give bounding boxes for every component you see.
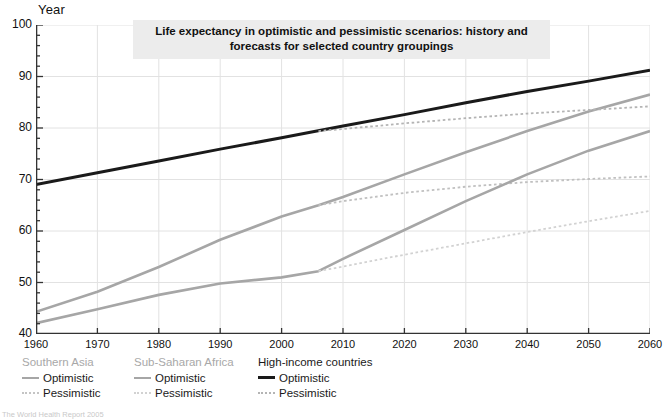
series-line — [318, 211, 650, 271]
legend-swatch-dotted-icon — [134, 392, 151, 394]
series-line — [318, 106, 650, 131]
x-tick-label: 2040 — [505, 338, 549, 350]
plot-svg — [36, 25, 650, 334]
legend-group-southern-asia: Southern Asia Optimistic Pessimistic — [22, 355, 101, 400]
chart-legend: Southern Asia Optimistic Pessimistic Sub… — [0, 355, 663, 405]
series-line — [318, 176, 650, 205]
x-tick-label: 2000 — [260, 338, 304, 350]
x-tick-label: 2010 — [321, 338, 365, 350]
x-tick-label: 2030 — [444, 338, 488, 350]
legend-item-pessimistic[interactable]: Pessimistic — [22, 385, 101, 400]
legend-item-pessimistic[interactable]: Pessimistic — [134, 385, 234, 400]
legend-item-optimistic[interactable]: Optimistic — [134, 370, 234, 385]
legend-swatch-solid-icon — [134, 377, 151, 379]
legend-group-header: Southern Asia — [22, 355, 101, 369]
chart-title: Life expectancy in optimistic and pessim… — [133, 20, 550, 59]
y-tick-label: 100 — [4, 17, 32, 31]
legend-swatch-solid-icon — [22, 377, 39, 379]
chart-figure: Year Life expectancy in optimistic and p… — [0, 0, 663, 419]
x-tick-label: 2020 — [382, 338, 426, 350]
chart-title-line-2: forecasts for selected country groupings — [135, 39, 548, 54]
chart-title-line-1: Life expectancy in optimistic and pessim… — [135, 24, 548, 39]
legend-item-optimistic[interactable]: Optimistic — [258, 370, 372, 385]
legend-swatch-solid-icon — [258, 376, 275, 379]
legend-group-high-income-countries: High-income countries Optimistic Pessimi… — [258, 355, 372, 400]
y-tick-label: 50 — [4, 275, 32, 289]
legend-group-header: Sub-Saharan Africa — [134, 355, 234, 369]
legend-group-header: High-income countries — [258, 355, 372, 369]
x-tick-label: 1980 — [137, 338, 181, 350]
x-tick-label: 1970 — [75, 338, 119, 350]
plot-area — [36, 25, 650, 334]
legend-group-sub-saharan-africa: Sub-Saharan Africa Optimistic Pessimisti… — [134, 355, 234, 400]
legend-swatch-dotted-icon — [22, 392, 39, 394]
legend-item-optimistic[interactable]: Optimistic — [22, 370, 101, 385]
legend-item-label: Optimistic — [155, 371, 205, 385]
x-tick-label: 1990 — [198, 338, 242, 350]
legend-swatch-dotted-icon — [258, 392, 275, 394]
source-caption: The World Health Report 2005 — [2, 410, 104, 419]
y-tick-label: 70 — [4, 172, 32, 186]
legend-item-label: Optimistic — [279, 371, 329, 385]
y-tick-label: 60 — [4, 223, 32, 237]
legend-item-label: Pessimistic — [279, 386, 337, 400]
y-tick-label: 80 — [4, 120, 32, 134]
y-axis-title: Year — [38, 2, 65, 17]
y-tick-label: 90 — [4, 69, 32, 83]
legend-item-pessimistic[interactable]: Pessimistic — [258, 385, 372, 400]
gridlines — [36, 25, 650, 334]
x-tick-label: 2050 — [567, 338, 611, 350]
legend-item-label: Pessimistic — [43, 386, 101, 400]
legend-item-label: Pessimistic — [155, 386, 213, 400]
x-tick-label: 2060 — [628, 338, 663, 350]
x-tick-label: 1960 — [14, 338, 58, 350]
legend-item-label: Optimistic — [43, 371, 93, 385]
